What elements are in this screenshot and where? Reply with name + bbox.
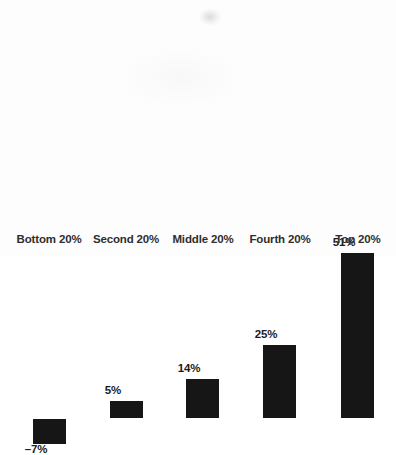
- bar-rect: [110, 401, 143, 418]
- bar-value-label: 5%: [83, 384, 143, 396]
- bar-value-label: –7%: [6, 443, 66, 455]
- category-axis-labels: Bottom 20%Second 20%Middle 20%Fourth 20%…: [0, 233, 396, 255]
- bar-rect: [341, 253, 374, 418]
- bar-series: –7%5%14%25%51%: [0, 0, 396, 232]
- bar-value-label: 25%: [236, 328, 296, 340]
- plot-area: –7%5%14%25%51%: [0, 0, 396, 232]
- bar-rect: [186, 379, 219, 418]
- bar-rect: [263, 345, 296, 418]
- bar-value-label: 14%: [159, 362, 219, 374]
- category-label-4: Fourth 20%: [235, 233, 325, 245]
- bar-rect: [33, 419, 66, 444]
- category-label-5: Top 20%: [313, 233, 396, 245]
